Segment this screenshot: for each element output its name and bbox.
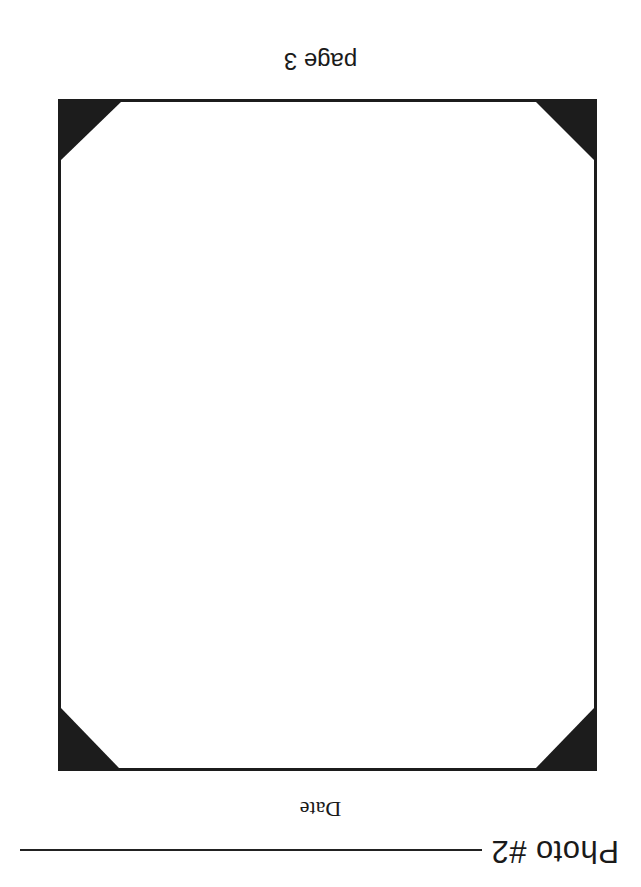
page-number: page 3 xyxy=(0,47,641,75)
photo-corner-bottom-right-icon xyxy=(61,102,121,160)
scrapbook-page: Photo #2 Date page 3 xyxy=(0,0,641,887)
date-write-line xyxy=(20,849,482,851)
photo-number-label: Photo #2 xyxy=(491,833,619,869)
photo-corner-top-right-icon xyxy=(61,708,119,768)
photo-corner-bottom-left-icon xyxy=(536,102,594,160)
photo-corner-top-left-icon xyxy=(536,708,594,768)
date-label: Date xyxy=(0,796,641,822)
photo-frame xyxy=(58,99,597,771)
